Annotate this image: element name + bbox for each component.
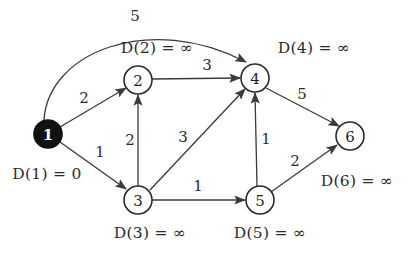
edge-weight-3-4: 3: [178, 128, 188, 146]
node-label-4: 4: [250, 70, 260, 88]
distance-label-1: D(1) = 0: [12, 165, 82, 183]
edge-1-to-2: [60, 88, 126, 127]
distance-label-6: D(6) = ∞: [321, 172, 394, 190]
node-label-1: 1: [43, 126, 53, 144]
node-1[interactable]: 1: [34, 120, 62, 148]
graph-canvas: 5212331152 123456 D(1) = 0D(2) = ∞D(3) =…: [0, 0, 408, 256]
node-3[interactable]: 3: [124, 186, 152, 214]
node-5[interactable]: 5: [246, 186, 274, 214]
edge-weight-labels-layer: 5212331152: [79, 7, 307, 195]
edge-weight-3-5: 1: [193, 177, 203, 195]
edge-3-to-4: [150, 89, 245, 190]
node-6[interactable]: 6: [336, 122, 364, 150]
edge-weight-2-4: 3: [202, 56, 212, 74]
edge-weight-5-6: 2: [290, 152, 300, 170]
edge-weight-4-6: 5: [297, 85, 307, 103]
node-label-3: 3: [133, 192, 143, 210]
distance-label-3: D(3) = ∞: [114, 224, 187, 242]
edge-weight-5-4: 1: [261, 130, 271, 148]
distance-label-2: D(2) = ∞: [121, 39, 194, 57]
edge-weight-1-2: 2: [79, 89, 89, 107]
edge-5-to-4: [255, 93, 257, 186]
graph-figure: 5212331152 123456 D(1) = 0D(2) = ∞D(3) =…: [0, 0, 408, 256]
node-label-6: 6: [345, 128, 355, 146]
edge-weight-1-4: 5: [130, 7, 140, 25]
node-2[interactable]: 2: [124, 66, 152, 94]
edges-layer: [44, 40, 339, 200]
edge-weight-1-3: 1: [95, 143, 105, 161]
node-label-5: 5: [255, 192, 265, 210]
edge-2-to-4: [152, 78, 240, 79]
distance-label-4: D(4) = ∞: [278, 39, 351, 57]
distance-label-5: D(5) = ∞: [234, 224, 307, 242]
node-label-2: 2: [133, 72, 143, 90]
edge-weight-3-2: 2: [125, 131, 135, 149]
node-4[interactable]: 4: [241, 64, 269, 92]
